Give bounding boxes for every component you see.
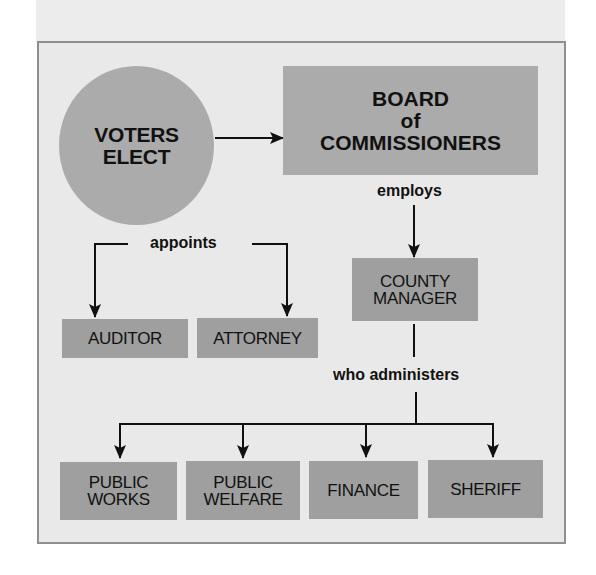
node-text: MANAGER	[373, 290, 457, 307]
edge-label-appoints: appoints	[150, 234, 217, 252]
node-public-works: PUBLIC WORKS	[60, 462, 177, 520]
node-text: WELFARE	[203, 491, 282, 508]
node-text: FINANCE	[327, 482, 400, 499]
node-voters-elect: VOTERS ELECT	[59, 66, 214, 225]
node-board-of-commissioners: BOARD of COMMISSIONERS	[283, 66, 538, 175]
node-auditor: AUDITOR	[62, 319, 188, 358]
node-text: of	[320, 110, 501, 132]
node-text: COUNTY	[373, 273, 457, 290]
edge-label-employs: employs	[377, 182, 442, 200]
node-text: VOTERS	[94, 124, 179, 146]
node-text: SHERIFF	[450, 481, 521, 498]
arrow-appoints-auditor	[95, 244, 128, 317]
node-attorney: ATTORNEY	[197, 318, 318, 358]
node-text: PUBLIC	[203, 474, 282, 491]
node-public-welfare: PUBLIC WELFARE	[186, 461, 300, 520]
node-text: ATTORNEY	[213, 330, 302, 347]
node-county-manager: COUNTY MANAGER	[352, 258, 478, 321]
edge-label-who-administers: who administers	[333, 366, 459, 384]
node-text: WORKS	[87, 491, 150, 508]
node-text: AUDITOR	[88, 330, 162, 347]
arrow-appoints-attorney	[252, 244, 287, 316]
node-finance: FINANCE	[309, 461, 418, 519]
node-text: BOARD	[320, 88, 501, 110]
node-text: PUBLIC	[87, 474, 150, 491]
node-text: ELECT	[94, 146, 179, 168]
node-sheriff: SHERIFF	[428, 460, 543, 518]
node-text: COMMISSIONERS	[320, 132, 501, 154]
